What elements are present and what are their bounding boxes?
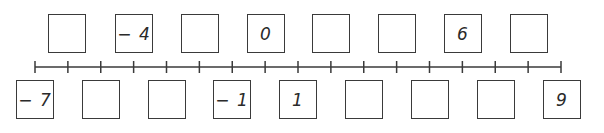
box-value: − 1: [215, 90, 248, 110]
top-box-6[interactable]: [378, 14, 416, 53]
top-box-7[interactable]: 6: [444, 14, 482, 53]
top-box-2[interactable]: − 4: [115, 14, 153, 53]
bottom-box-6[interactable]: [345, 80, 383, 119]
bottom-box-7[interactable]: [411, 80, 449, 119]
box-value: − 7: [18, 90, 51, 110]
box-value: 9: [556, 90, 568, 110]
bottom-box-4[interactable]: − 1: [213, 80, 251, 119]
bottom-box-9[interactable]: 9: [543, 80, 581, 119]
number-line-worksheet: − 4 0 6 − 7 − 1 1 9: [0, 0, 604, 133]
box-value: 0: [260, 24, 272, 44]
bottom-box-8[interactable]: [477, 80, 515, 119]
top-box-3[interactable]: [181, 14, 219, 53]
top-box-1[interactable]: [48, 14, 86, 53]
box-value: 1: [292, 90, 304, 110]
box-value: − 4: [117, 24, 150, 44]
top-box-5[interactable]: [312, 14, 350, 53]
bottom-box-5[interactable]: 1: [279, 80, 317, 119]
bottom-box-1[interactable]: − 7: [16, 80, 54, 119]
bottom-box-2[interactable]: [82, 80, 120, 119]
top-box-4[interactable]: 0: [247, 14, 285, 53]
top-box-8[interactable]: [510, 14, 548, 53]
bottom-box-3[interactable]: [148, 80, 186, 119]
box-value: 6: [457, 24, 469, 44]
